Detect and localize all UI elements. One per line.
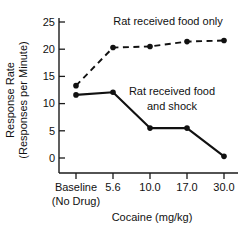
series-layer: [73, 38, 227, 159]
y-tick-label: 10: [43, 97, 55, 109]
y-tick-label: 0: [49, 152, 55, 164]
x-tick-label: 5.6: [105, 181, 120, 193]
line-chart-plot: Response Rate (Responses per Minute) 0 5…: [0, 0, 248, 230]
y-tick-label: 20: [43, 43, 55, 55]
data-point: [184, 125, 190, 131]
data-point: [73, 83, 79, 89]
y-axis-ticks: 0 5 10 15 20 25: [43, 16, 65, 164]
y-axis-title-line1: Response Rate: [4, 62, 16, 138]
x-tick-label-second-line: (No Drug): [52, 195, 100, 207]
data-point: [73, 92, 79, 98]
y-tick-label: 15: [43, 70, 55, 82]
data-point: [110, 45, 116, 51]
x-tick-label: Baseline: [55, 181, 97, 193]
data-point: [221, 38, 227, 44]
y-axis-title-line2: (Responses per Minute): [17, 41, 29, 158]
x-tick-label: 17.0: [176, 181, 197, 193]
data-point: [147, 44, 153, 50]
data-point: [221, 154, 227, 160]
x-tick-label: 10.0: [139, 181, 160, 193]
data-point: [110, 89, 116, 95]
series-annotation-food-and-shock-line2: and shock: [147, 100, 198, 112]
x-axis-title: Cocaine (mg/kg): [112, 211, 193, 223]
chart-container: Response Rate (Responses per Minute) 0 5…: [0, 0, 248, 230]
data-point: [184, 39, 190, 45]
x-tick-label: 30.0: [213, 181, 234, 193]
data-point: [147, 125, 153, 131]
series-annotation-food-only: Rat received food only: [113, 15, 223, 27]
y-tick-label: 25: [43, 16, 55, 28]
series-annotation-food-and-shock-line1: Rat received food: [129, 85, 215, 97]
x-axis-ticks: Baseline (No Drug) 5.6 10.0 17.0 30.0: [52, 173, 235, 207]
y-tick-label: 5: [49, 125, 55, 137]
